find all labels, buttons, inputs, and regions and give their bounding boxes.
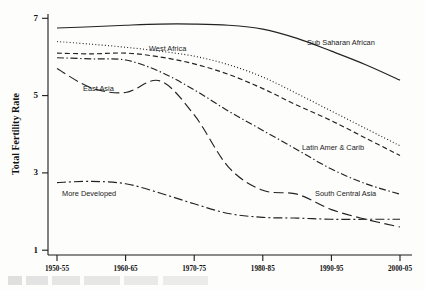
fertility-rate-chart-figure: 7 5 3 1 1950-55 1960-65 1970-75 1980-85 … bbox=[0, 0, 425, 290]
chart-svg: 7 5 3 1 1950-55 1960-65 1970-75 1980-85 … bbox=[0, 0, 425, 290]
x-tick-label-1990-95: 1990-95 bbox=[319, 265, 343, 273]
x-tick-label-1970-75: 1970-75 bbox=[182, 265, 206, 273]
series-line-sub-saharan-african bbox=[57, 24, 400, 80]
series-label-west-africa: West Africa bbox=[149, 44, 187, 53]
x-tick-label-1950-55: 1950-55 bbox=[45, 265, 69, 273]
y-tick-label-1: 1 bbox=[34, 245, 39, 255]
y-tick-label-5: 5 bbox=[34, 90, 39, 100]
y-tick-label-7: 7 bbox=[34, 13, 39, 23]
y-ticks-group: 7 5 3 1 bbox=[34, 13, 49, 255]
series-label-more-developed: More Developed bbox=[62, 189, 116, 198]
x-tick-label-1980-85: 1980-85 bbox=[251, 265, 275, 273]
y-axis-title: Total Fertility Rate bbox=[10, 93, 21, 175]
x-tick-label-1960-65: 1960-65 bbox=[114, 265, 138, 273]
y-tick-label-3: 3 bbox=[34, 167, 39, 177]
series-line-west-africa bbox=[57, 41, 400, 145]
series-label-sub-saharan-african: Sub Saharan African bbox=[307, 38, 375, 47]
series-label-south-central-asia: South Central Asia bbox=[315, 189, 377, 198]
x-tick-label-2000-05: 2000-05 bbox=[388, 265, 412, 273]
series-line-south-central-asia bbox=[57, 181, 400, 219]
series-line-latin-amer-carib bbox=[57, 58, 400, 194]
x-ticks-group: 1950-55 1960-65 1970-75 1980-85 1990-95 … bbox=[45, 255, 412, 273]
series-label-latin-amer-carib: Latin Amer & Carib bbox=[302, 143, 364, 152]
caption-smudge-artifact bbox=[8, 276, 208, 285]
series-label-east-asia: East Asia bbox=[83, 84, 115, 93]
series-line-middle-africa bbox=[57, 53, 400, 156]
